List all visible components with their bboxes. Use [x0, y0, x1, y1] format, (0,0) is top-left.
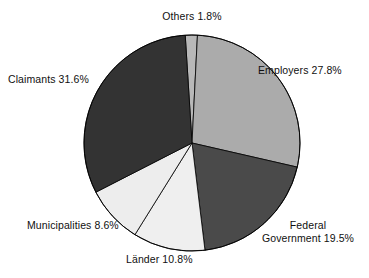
pie-label-federal-government-line1: Federal: [290, 219, 326, 231]
pie-label-municipalities: Municipalities 8.6%: [27, 219, 119, 232]
pie-label-laender: Länder 10.8%: [126, 253, 193, 266]
pie-label-claimants: Claimants 31.6%: [8, 73, 89, 86]
pie-chart-figure: Others 1.8% Employers 27.8% Federal Gove…: [0, 0, 369, 278]
pie-label-others: Others 1.8%: [137, 10, 247, 23]
pie-label-federal-government-line2: Government 19.5%: [262, 232, 354, 244]
pie-label-federal-government: Federal Government 19.5%: [254, 219, 362, 245]
pie-label-employers: Employers 27.8%: [258, 64, 342, 77]
